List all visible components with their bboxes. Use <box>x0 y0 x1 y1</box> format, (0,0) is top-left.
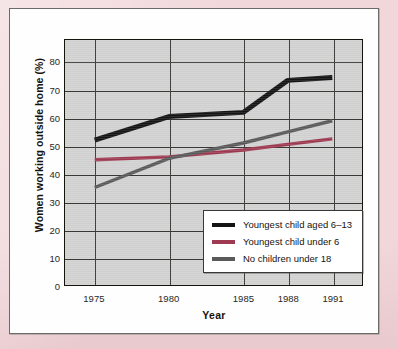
y-axis-tick-label: 30 <box>16 196 60 207</box>
x-axis-tick-label: 1991 <box>303 293 363 304</box>
y-axis-tick-label: 10 <box>16 252 60 263</box>
page-background: Women working outside home (%) Year 0102… <box>0 0 398 349</box>
legend-swatch <box>212 223 235 227</box>
x-axis-tick-label: 1980 <box>139 293 199 304</box>
y-axis-tick-label: 20 <box>16 224 60 235</box>
legend-item: Youngest child under 6 <box>209 233 356 250</box>
y-axis-tick-label: 60 <box>16 112 60 123</box>
legend-label: Youngest child aged 6–13 <box>243 219 352 230</box>
line-chart: Women working outside home (%) Year 0102… <box>10 9 380 335</box>
x-axis-title: Year <box>64 309 364 321</box>
y-axis-tick-label: 80 <box>16 56 60 67</box>
legend-label: Youngest child under 6 <box>243 236 339 247</box>
figure-card: Women working outside home (%) Year 0102… <box>9 8 379 334</box>
legend-item: Youngest child aged 6–13 <box>209 216 356 233</box>
y-axis-tick-label: 70 <box>16 84 60 95</box>
x-axis-tick-label: 1975 <box>64 293 124 304</box>
legend-swatch <box>212 257 235 261</box>
chart-legend: Youngest child aged 6–13Youngest child u… <box>203 210 363 273</box>
legend-item: No children under 18 <box>209 250 356 267</box>
y-axis-tick-label: 40 <box>16 168 60 179</box>
legend-label: No children under 18 <box>243 253 331 264</box>
y-axis-tick-label: 50 <box>16 140 60 151</box>
y-axis-tick-label: 0 <box>16 281 60 292</box>
legend-swatch <box>212 240 235 244</box>
